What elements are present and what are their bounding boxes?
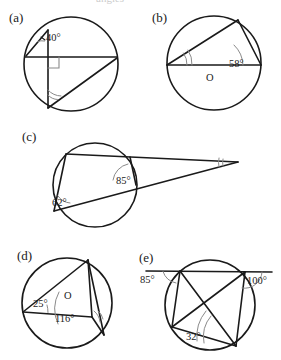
panel-a-diagonal-chord: [48, 58, 117, 108]
panel-e-angle-100-label: 100°: [247, 275, 267, 286]
panel-b-angle-58-label: 58°: [229, 58, 244, 69]
panel-c-diagram: [53, 143, 238, 227]
panel-d-centre-label: O: [64, 290, 72, 301]
panel-e-angle-32-label: 32°: [186, 331, 201, 342]
panel-c-arc-unknown-1: [218, 158, 219, 167]
panel-e-extended-line: [146, 271, 272, 272]
panel-a-circle: [24, 17, 118, 111]
panel-a-right-angle-marker: [48, 57, 59, 68]
panel-e-label: (e): [139, 250, 153, 265]
panel-b-diagram: [167, 16, 261, 110]
panel-c-label: (c): [22, 129, 36, 144]
panel-c-secant-lower: [54, 162, 238, 211]
panel-b-circle: [167, 16, 261, 110]
circle-theorems-figure: (a) (b) (c) (d) (e) 40° 58° O 62° 85° 25…: [0, 0, 281, 360]
panel-c-secant-upper: [66, 154, 238, 162]
panel-c-angle-85-label: 85°: [116, 175, 131, 186]
panel-d-angle-25-label: 25°: [33, 298, 48, 309]
panel-c-angle-62-label: 62°: [52, 197, 67, 208]
panel-a-label: (a): [9, 10, 23, 25]
geometry-figure-sheet: (a) (b) (c) (d) (e) 40° 58° O 62° 85° 25…: [0, 0, 281, 360]
panel-a-angle-40-label: 40°: [46, 32, 61, 43]
panel-b-side-left: [167, 20, 238, 65]
panel-a-diagram: [24, 17, 118, 111]
panel-b-label: (b): [152, 10, 167, 25]
panel-e-diagram: [146, 260, 272, 350]
panel-e-angle-85-label: 85°: [140, 274, 155, 285]
panel-b-centre-label: O: [206, 72, 214, 83]
panel-a-arc-unknown-1: [48, 90, 61, 96]
panel-a-arc-40: [38, 41, 45, 42]
panel-d-label: (d): [17, 248, 32, 263]
panel-d-angle-116-label: 116°: [55, 313, 75, 324]
